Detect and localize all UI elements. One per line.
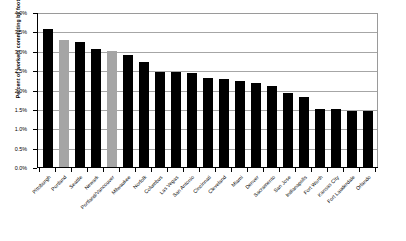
plot-area (37, 13, 378, 168)
bar-slot (200, 13, 216, 167)
y-axis-tick-label: 0.5% (0, 146, 27, 152)
y-axis-tick-label: 1.5% (0, 107, 27, 113)
bar-slot (360, 13, 376, 167)
bar (155, 72, 165, 167)
y-axis-tick-label: 3.0% (0, 49, 27, 55)
x-axis-label-slot: Cincinnati (199, 172, 215, 238)
bar-slot (280, 13, 296, 167)
bar (251, 83, 261, 167)
bar-slot (216, 13, 232, 167)
bar (59, 40, 69, 167)
bar (187, 73, 197, 167)
x-axis-label-slot: Las Vegas (167, 172, 183, 238)
x-axis-label-slot: Miami (232, 172, 248, 238)
y-axis-tick-label: 2.0% (0, 88, 27, 94)
bar (331, 109, 341, 167)
bar-slot (328, 13, 344, 167)
bar (363, 111, 373, 167)
bar (299, 97, 309, 167)
bar-slot (104, 13, 120, 167)
bar (91, 49, 101, 167)
y-axis-title: Percent of workers commuting by foot (15, 0, 21, 119)
y-axis-tick-label: 4.0% (0, 10, 27, 16)
bar-slot (168, 13, 184, 167)
x-axis-label-slot: Cleveland (216, 172, 232, 238)
y-axis-tick-label: 1.0% (0, 126, 27, 132)
x-axis-label-slot: Fort Lauderdale (344, 172, 360, 238)
x-axis-tick-labels: PittsburghPortlandSeattleNewarkPortland/… (37, 172, 378, 238)
x-axis-label-slot: Indianapolis (296, 172, 312, 238)
bar (123, 55, 133, 167)
x-axis-tick-label: Pittsburgh (30, 174, 51, 195)
x-axis-label-slot: Norfolk (135, 172, 151, 238)
y-axis-tick-label: 0.0% (0, 165, 27, 171)
bar-slot (248, 13, 264, 167)
bar-slot (232, 13, 248, 167)
x-axis-label-slot: San Jose (280, 172, 296, 238)
bar (139, 62, 149, 167)
bar (43, 29, 53, 167)
bar (75, 42, 85, 167)
bar-slot (296, 13, 312, 167)
x-axis-label-slot: Kansas City (328, 172, 344, 238)
bar (315, 109, 325, 167)
x-axis-label-slot: Fort Worth (312, 172, 328, 238)
bar (219, 79, 229, 167)
bar-slot (184, 13, 200, 167)
x-axis-label-slot: Newark (87, 172, 103, 238)
bar-series (38, 13, 378, 167)
bar (203, 78, 213, 167)
x-axis-label-slot: Denver (248, 172, 264, 238)
bar-slot (88, 13, 104, 167)
x-axis-label-slot: Milwaukee (119, 172, 135, 238)
bar-slot (120, 13, 136, 167)
bar (267, 86, 277, 167)
x-axis-label-slot: Portland/Vancouver (103, 172, 119, 238)
bar (107, 51, 117, 167)
bar (235, 81, 245, 167)
x-axis-label-slot: Pittsburgh (39, 172, 55, 238)
bar-slot (344, 13, 360, 167)
x-axis-label-slot: Columbus (151, 172, 167, 238)
y-axis-tick-label: 2.5% (0, 68, 27, 74)
bar (171, 72, 181, 167)
bar (347, 111, 357, 167)
bar-slot (136, 13, 152, 167)
bar (283, 93, 293, 167)
bar-slot (152, 13, 168, 167)
bar-slot (72, 13, 88, 167)
bar-slot (264, 13, 280, 167)
bar-slot (40, 13, 56, 167)
x-axis-label-slot: Orlando (360, 172, 376, 238)
bar-slot (312, 13, 328, 167)
x-axis-label-slot: San Antonio (183, 172, 199, 238)
x-axis-label-slot: Sacramento (264, 172, 280, 238)
y-axis-tick-label: 3.5% (0, 29, 27, 35)
x-axis-label-slot: Portland (55, 172, 71, 238)
bar-slot (56, 13, 72, 167)
bar-chart: Percent of workers commuting by foot 4.0… (0, 0, 406, 241)
x-axis-tick-label: Miami (230, 174, 244, 188)
